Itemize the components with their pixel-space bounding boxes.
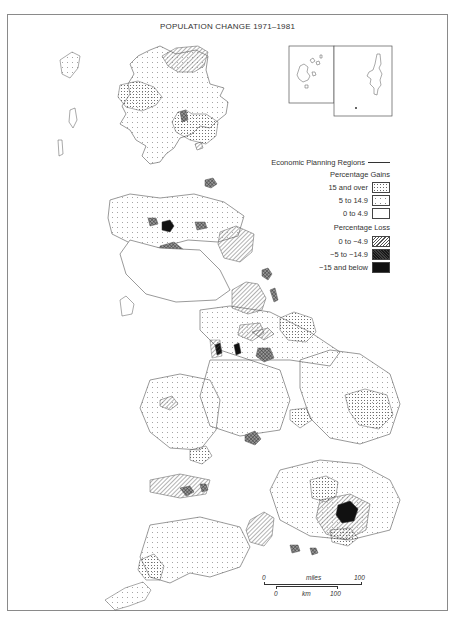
- region-wales-midlands: [140, 350, 400, 464]
- legend-item-gain-low: 0 to 4.9: [343, 208, 390, 219]
- scale-bar: 0 miles 100 0 km 100: [258, 574, 388, 604]
- solid-black-swatch-icon: [372, 262, 390, 273]
- legend-item-label: −15 and below: [319, 263, 368, 272]
- inset-shetland: [334, 46, 392, 116]
- region-south-west: [105, 517, 250, 610]
- legend-loss-header: Percentage Loss: [334, 223, 390, 232]
- region-south-east: [246, 460, 400, 555]
- scale-miles-start: 0: [262, 574, 266, 581]
- boundary-line-icon: [368, 162, 390, 163]
- scale-miles-end: 100: [354, 574, 365, 581]
- legend-item-label: −5 to −14.9: [330, 250, 368, 259]
- legend-item-loss-mid: −5 to −14.9: [330, 249, 390, 260]
- scale-miles-label: miles: [306, 574, 321, 581]
- legend-item-label: 0 to −4.9: [339, 237, 368, 246]
- legend-item-label: 0 to 4.9: [343, 209, 368, 218]
- legend-item-loss-low: 0 to −4.9: [339, 236, 390, 247]
- legend-item-label: 5 to 14.9: [339, 196, 368, 205]
- legend-item-gain-high: 15 and over: [328, 182, 390, 193]
- scale-miles-bar: [264, 582, 362, 585]
- legend-boundary-label: Economic Planning Regions: [271, 158, 365, 167]
- crosshatch-swatch-icon: [372, 249, 390, 260]
- region-central-belt: [108, 194, 254, 302]
- hatch-swatch-icon: [372, 236, 390, 247]
- region-west-coast: [120, 296, 134, 316]
- legend-gains-header: Percentage Gains: [330, 170, 390, 179]
- legend-item-label: 15 and over: [328, 183, 368, 192]
- sparse-dots-swatch-icon: [372, 195, 390, 206]
- legend-item-loss-high: −15 and below: [319, 262, 390, 273]
- scale-km-start: 0: [274, 590, 278, 597]
- region-scotland: [58, 46, 228, 188]
- blank-swatch-icon: [372, 208, 390, 219]
- scale-km-label: km: [302, 590, 311, 597]
- scale-km-end: 100: [330, 590, 341, 597]
- legend-item-gain-mid: 5 to 14.9: [339, 195, 390, 206]
- map-canvas: [0, 0, 454, 619]
- dense-dots-swatch-icon: [372, 182, 390, 193]
- region-south-wales: [150, 474, 210, 498]
- legend-boundary: Economic Planning Regions: [271, 158, 390, 167]
- scale-km-bar: [276, 586, 338, 589]
- inset-orkney: [289, 46, 334, 103]
